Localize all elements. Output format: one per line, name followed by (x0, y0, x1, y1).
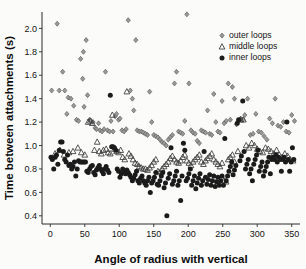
legend-label-inner-loops: inner loops (229, 52, 271, 62)
data-point (132, 108, 136, 113)
data-point (189, 183, 194, 188)
data-point (231, 172, 236, 177)
data-point (55, 21, 59, 26)
data-point (65, 152, 70, 157)
data-point (237, 158, 242, 163)
data-point (193, 186, 198, 191)
data-point (175, 183, 180, 188)
data-point (226, 81, 230, 86)
data-point (242, 149, 247, 154)
data-point (177, 178, 182, 183)
data-point (63, 88, 67, 93)
x-tick-label: 200 (181, 229, 196, 239)
data-point (60, 140, 65, 145)
data-point (197, 171, 202, 176)
data-point (173, 173, 178, 178)
data-point (262, 169, 267, 174)
data-point (253, 157, 258, 162)
data-point (51, 166, 56, 171)
data-point (187, 81, 191, 86)
data-point (70, 148, 76, 153)
data-point (291, 157, 296, 162)
data-point (50, 88, 54, 93)
data-point (230, 84, 234, 89)
data-point (148, 190, 153, 195)
data-point (214, 120, 218, 125)
data-point (273, 96, 277, 101)
data-point (153, 170, 158, 175)
data-point (218, 178, 223, 183)
data-point (65, 111, 69, 116)
x-tick-label: 150 (146, 229, 161, 239)
data-point (146, 175, 151, 180)
data-point (257, 169, 262, 174)
data-point (147, 89, 151, 94)
data-point (144, 183, 149, 188)
data-point (85, 93, 89, 98)
data-point (169, 145, 174, 150)
data-point (174, 169, 179, 174)
data-point (287, 169, 292, 174)
data-point (229, 159, 234, 164)
y-tick-label: 0.8 (24, 164, 37, 174)
data-point (93, 172, 98, 177)
scatter-plot-figure: 0.40.60.81.01.21.41.61.82.0 050100150200… (0, 0, 306, 269)
legend-label-outer-loops: outer loops (229, 30, 272, 40)
data-point (268, 171, 273, 176)
data-point (130, 96, 134, 101)
data-point (228, 117, 232, 122)
y-tick-label: 1.8 (24, 47, 37, 57)
data-point (220, 56, 225, 61)
data-point (219, 44, 225, 49)
data-point (134, 38, 138, 43)
data-point (178, 198, 183, 203)
data-point (244, 162, 249, 167)
data-point (268, 116, 272, 121)
plot-svg: 0.40.60.81.01.21.41.61.82.0 050100150200… (0, 0, 306, 269)
data-point (262, 134, 266, 139)
data-point (172, 81, 176, 86)
x-axis-title: Angle of radius with vertical (94, 253, 247, 265)
data-point (232, 96, 236, 101)
data-point (181, 141, 186, 146)
data-point (290, 145, 295, 150)
data-point (233, 163, 238, 168)
data-point (75, 145, 81, 150)
data-point (243, 166, 248, 171)
data-point (79, 56, 83, 61)
data-point (290, 113, 294, 118)
data-point (92, 147, 98, 152)
y-tick-label: 0.4 (24, 211, 37, 221)
data-point (103, 69, 107, 74)
data-point (250, 178, 255, 183)
x-tick-label: 300 (250, 229, 265, 239)
data-point (72, 103, 76, 108)
x-tick-label: 100 (112, 229, 127, 239)
data-point (235, 148, 241, 153)
y-tick-label: 1.6 (24, 70, 37, 80)
data-point (162, 185, 167, 190)
data-point (101, 171, 106, 176)
data-point (220, 173, 225, 178)
data-point (251, 162, 256, 167)
data-point (180, 173, 185, 178)
data-point (61, 69, 65, 74)
x-tick-label: 350 (284, 229, 299, 239)
data-point (226, 169, 231, 174)
data-point (166, 176, 171, 181)
data-point (164, 213, 169, 218)
data-point (265, 137, 269, 142)
y-tick-label: 1.4 (24, 94, 37, 104)
data-point (163, 181, 168, 186)
data-point (73, 173, 78, 178)
data-point (246, 157, 251, 162)
y-tick-label: 1.2 (24, 117, 37, 127)
data-point (96, 121, 100, 126)
data-point (81, 49, 85, 54)
data-point (82, 104, 86, 109)
data-point (186, 171, 191, 176)
data-point (185, 12, 189, 17)
data-point (258, 164, 263, 169)
data-point (222, 136, 227, 141)
y-tick-label: 1.0 (24, 141, 37, 151)
